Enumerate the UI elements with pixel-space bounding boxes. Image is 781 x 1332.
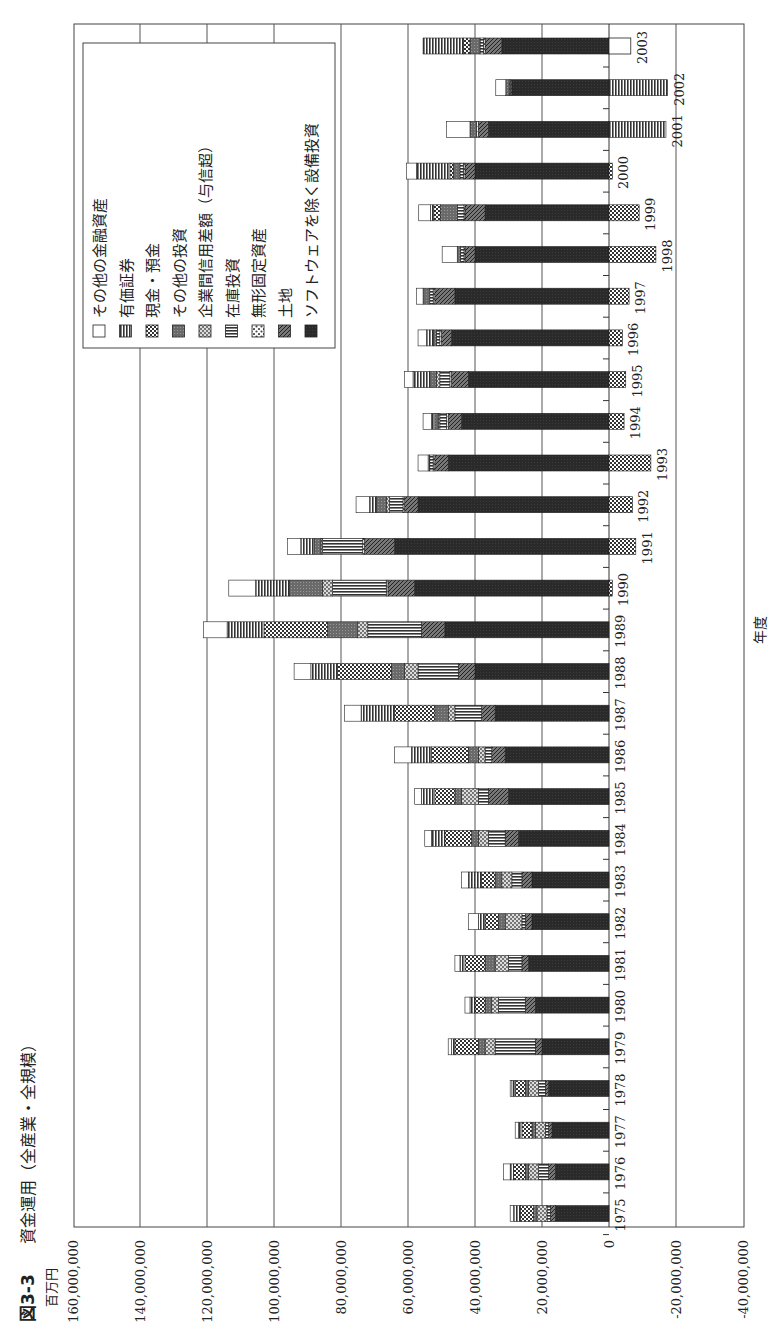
bar-segment-capex: [555, 1164, 609, 1180]
bar-segment-inventory: [498, 997, 525, 1013]
bar-segment-other_invest: [498, 914, 505, 930]
bar-segment-inventory: [488, 830, 505, 846]
legend-label: 在庫投資: [224, 258, 242, 318]
bar-segment-intercorp: [436, 372, 439, 388]
bar-segment-inventory: [539, 1081, 546, 1097]
bar-segment-inventory: [457, 205, 464, 221]
bar-segment-negative: [609, 580, 612, 596]
bar-segment-cash: [445, 830, 472, 846]
bar-segment-intercorp: [405, 664, 418, 680]
bar-segment-capex: [395, 538, 609, 554]
bar-segment-capex: [468, 372, 609, 388]
bar-segment-land: [435, 288, 455, 304]
bar-segment-land: [505, 830, 518, 846]
year-label: 1988: [613, 656, 628, 689]
bar-segment-inventory: [460, 163, 463, 179]
bar-segment-securities: [369, 497, 376, 513]
bar-segment-inventory: [485, 747, 492, 763]
legend: その他の金融資産有価証券現金・預金その他の投資企業間信用差額（与信超）在庫投資無…: [83, 43, 335, 348]
year-label: 2003: [635, 31, 650, 64]
bar-segment-capex: [519, 830, 609, 846]
bar-segment-intercorp: [537, 1206, 547, 1222]
value-tick-label: 160,000,000: [66, 1240, 81, 1323]
bar-segment-cash: [431, 747, 468, 763]
legend-label: その他の投資: [171, 228, 189, 318]
bar-segment-cash: [455, 1039, 478, 1055]
year-label: 1995: [630, 365, 645, 398]
bar-segment-cash: [450, 163, 453, 179]
bar-segment-land: [421, 622, 444, 638]
bar-segment-inventory: [547, 1206, 550, 1222]
year-label: 1994: [628, 406, 643, 439]
bar-segment-land: [405, 497, 418, 513]
bar-segment-intercorp: [529, 1164, 539, 1180]
bar-segment-other_invest: [435, 705, 448, 721]
bar-segment-other_financial: [423, 413, 431, 429]
bar-segment-securities: [514, 1206, 521, 1222]
bar-segment-securities: [301, 538, 314, 554]
bar-segment-other_invest: [435, 413, 438, 429]
legend-swatch-other_financial: [93, 325, 105, 337]
bar-segment-other_invest: [478, 1039, 485, 1055]
bar-segment-securities: [452, 1039, 455, 1055]
bar-segment-other_invest: [485, 955, 495, 971]
bar-segment-cash: [465, 955, 485, 971]
bar-segment-land: [465, 163, 475, 179]
bar-segment-negative: [609, 163, 612, 179]
bar-segment-other_financial: [229, 580, 256, 596]
bar-segment-other_financial: [465, 997, 470, 1013]
bar-segment-securities: [478, 914, 485, 930]
bar-segment-other_financial: [419, 205, 431, 221]
bar-segment-cash: [435, 789, 455, 805]
value-tick-label: 0: [602, 1240, 617, 1248]
bar-segment-inventory: [539, 1164, 549, 1180]
year-label: 1990: [616, 573, 631, 606]
bar-segment-cash: [515, 1081, 525, 1097]
bar-segment-capex: [485, 205, 609, 221]
bar-segment-inventory: [368, 622, 422, 638]
bar-segment-other_invest: [289, 580, 323, 596]
bar-segment-land: [452, 372, 469, 388]
bar-segment-other_invest: [457, 247, 460, 263]
year-label: 1996: [626, 323, 641, 356]
bar-segment-inventory: [323, 538, 363, 554]
bar-segment-securities: [519, 1122, 522, 1138]
bar-segment-capex: [415, 580, 609, 596]
bar-segment-intercorp: [535, 1122, 545, 1138]
year-label: 1993: [655, 448, 670, 481]
bar-segment-land: [522, 955, 529, 971]
bar-segment-other_financial: [356, 497, 369, 513]
figure-title: 資金運用（全産業・全規模）: [19, 1036, 38, 1244]
bar-segment-other_financial: [448, 1039, 451, 1055]
legend-swatch-other_invest: [173, 325, 185, 337]
bar-segment-cash: [463, 38, 470, 54]
year-label: 1975: [613, 1199, 628, 1232]
bar-segment-other_invest: [376, 497, 386, 513]
year-label: 1979: [613, 1032, 628, 1065]
bar-segment-negative: [609, 247, 656, 263]
unit-label: 百万円: [44, 1268, 59, 1307]
bar-segment-other_invest: [495, 872, 502, 888]
year-label: 1985: [613, 782, 628, 815]
bar-segment-other_financial: [405, 372, 413, 388]
year-label: 1977: [613, 1115, 628, 1148]
year-label: 2002: [672, 73, 687, 106]
bar-segment-land: [549, 1164, 556, 1180]
bar-segment-intercorp: [529, 1081, 539, 1097]
bar-segment-other_invest: [440, 205, 457, 221]
year-label: 2001: [670, 114, 685, 147]
year-label: 2000: [616, 156, 631, 189]
bar-segment-capex: [448, 455, 609, 471]
bar-segment-other_invest: [472, 830, 479, 846]
bar-segment-land: [549, 1122, 552, 1138]
bar-segment-capex: [549, 1081, 609, 1097]
bar-segment-capex: [509, 789, 610, 805]
legend-label: 無形固定資産: [250, 228, 268, 318]
bar-segment-capex: [495, 705, 609, 721]
bar-segment-land: [525, 997, 535, 1013]
value-tick-label: 20,000,000: [535, 1240, 550, 1314]
bar-segment-capex: [445, 622, 609, 638]
bar-segment-land: [458, 664, 475, 680]
bar-segment-cash: [338, 664, 392, 680]
bar-segment-inventory: [455, 705, 482, 721]
